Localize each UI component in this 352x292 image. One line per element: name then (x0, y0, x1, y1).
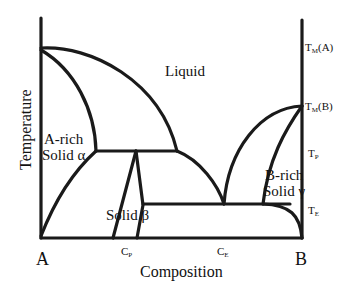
beta-left-boundary (113, 151, 136, 238)
x-axis-title: Composition (140, 264, 223, 280)
gamma-label-line2: Solid γ (263, 184, 305, 199)
endpoint-a-label: A (36, 250, 49, 268)
y-axis-title: Temperature (18, 89, 34, 170)
phase-diagram: Liquid A-rich Solid α Solid β B-rich Sol… (0, 0, 352, 292)
tick-ce: CE (217, 246, 229, 259)
beta-label: Solid β (106, 208, 149, 223)
gamma-label-line1: B-rich (265, 168, 303, 183)
alpha-label-line1: A-rich (44, 132, 83, 147)
endpoint-b-label: B (295, 250, 307, 268)
solvus-gamma (263, 204, 302, 238)
tick-te: TE (308, 205, 319, 218)
liquid-label: Liquid (165, 64, 205, 79)
tick-tp: TP (308, 148, 319, 161)
alpha-label-line2: Solid α (42, 148, 85, 163)
tick-tmb: TM(B) (305, 101, 333, 114)
liquidus-beta (177, 151, 224, 204)
tick-cp: CP (121, 246, 132, 259)
solvus-alpha (41, 151, 96, 236)
tick-tma: TM(A) (305, 42, 333, 55)
beta-right-boundary (136, 151, 143, 238)
